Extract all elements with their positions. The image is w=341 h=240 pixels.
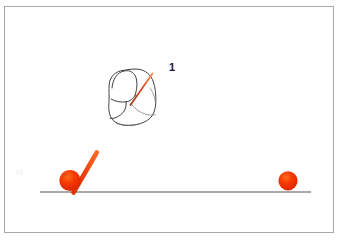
- red-diagonal-stroke: [131, 74, 153, 106]
- diagram-svg: [0, 0, 341, 240]
- figure-number-label: 1: [169, 62, 175, 73]
- right-ball: [278, 171, 297, 190]
- sketch-canvas: 1: [0, 0, 341, 240]
- faint-smudge-mark: [17, 171, 22, 175]
- card-border: [5, 7, 334, 233]
- left-ball: [59, 170, 80, 191]
